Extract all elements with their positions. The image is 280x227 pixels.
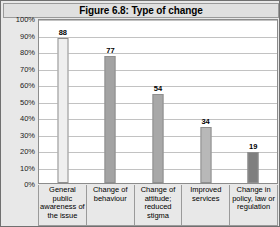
bar-slot: 88 — [39, 20, 87, 183]
category-label: Improved services — [182, 186, 229, 203]
page-title: Figure 6.8: Type of change — [79, 5, 202, 16]
category-label: Change in policy, law or regulation — [230, 186, 277, 212]
y-axis-tick-label: 0% — [24, 180, 35, 189]
y-axis-tick-label: 30% — [20, 130, 35, 139]
bar-slot: 34 — [182, 20, 230, 183]
y-axis-tick-label: 60% — [20, 81, 35, 90]
y-axis-tick-label: 50% — [20, 97, 35, 106]
plot-area: 8877543419 — [38, 19, 278, 184]
bar — [200, 127, 211, 183]
bar — [57, 38, 68, 183]
y-axis: 100%90%80%70%60%50%40%30%20%10%0% — [3, 17, 37, 184]
y-axis-tick-label: 80% — [20, 48, 35, 57]
category-cell-1: General public awareness of the issue — [39, 185, 87, 225]
bar-slot: 54 — [134, 20, 182, 183]
category-label: Change of behaviour — [87, 186, 134, 203]
category-label: General public awareness of the issue — [39, 186, 86, 220]
bar-value-label: 34 — [201, 117, 209, 126]
category-cell-4: Improved services — [182, 185, 230, 225]
bar — [248, 152, 259, 183]
bar — [105, 56, 116, 183]
y-axis-tick-label: 70% — [20, 64, 35, 73]
bar-series: 8877543419 — [39, 20, 277, 183]
figure-title-bar: Figure 6.8: Type of change — [3, 3, 279, 18]
y-axis-tick-label: 100% — [16, 15, 35, 24]
y-axis-tick-label: 40% — [20, 114, 35, 123]
bar-value-label: 88 — [59, 28, 67, 37]
category-cell-3: Change of attitude; reduced stigma — [135, 185, 183, 225]
y-axis-tick-label: 10% — [20, 163, 35, 172]
figure-container: Figure 6.8: Type of change 100%90%80%70%… — [0, 0, 280, 227]
bar-value-label: 54 — [154, 84, 162, 93]
category-cell-5: Change in policy, law or regulation — [230, 185, 277, 225]
bar-value-label: 19 — [249, 142, 257, 151]
bar-slot: 19 — [229, 20, 277, 183]
y-axis-tick-label: 90% — [20, 31, 35, 40]
category-axis: General public awareness of the issueCha… — [38, 185, 278, 226]
bar-slot: 77 — [87, 20, 135, 183]
y-axis-tick-label: 20% — [20, 147, 35, 156]
bar-value-label: 77 — [106, 46, 114, 55]
bar — [152, 94, 163, 183]
category-cell-2: Change of behaviour — [87, 185, 135, 225]
category-label: Change of attitude; reduced stigma — [135, 186, 182, 220]
